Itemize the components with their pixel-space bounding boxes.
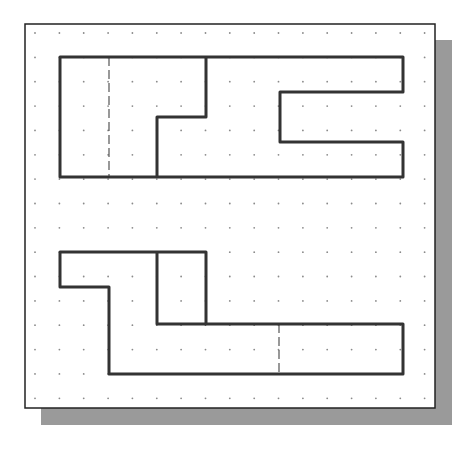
grid-dot <box>375 397 377 399</box>
grid-dot <box>229 300 231 302</box>
grid-dot <box>351 276 353 278</box>
grid-dot <box>399 130 401 132</box>
grid-dot <box>107 203 109 205</box>
grid-dot <box>399 251 401 253</box>
grid-dot <box>59 203 61 205</box>
grid-dot <box>302 227 304 229</box>
grid-dot <box>424 227 426 229</box>
orthographic-drawing <box>0 0 467 453</box>
grid-dot <box>253 300 255 302</box>
grid-dot <box>375 227 377 229</box>
grid-dot <box>180 130 182 132</box>
grid-dot <box>34 397 36 399</box>
grid-dot <box>424 300 426 302</box>
grid-dot <box>375 130 377 132</box>
grid-dot <box>424 32 426 34</box>
grid-dot <box>107 32 109 34</box>
grid-dot <box>34 349 36 351</box>
grid-dot <box>399 349 401 351</box>
grid-dot <box>424 324 426 326</box>
grid-dot <box>229 81 231 83</box>
grid-dot <box>34 130 36 132</box>
grid-dot <box>326 105 328 107</box>
grid-dot <box>83 397 85 399</box>
grid-dot <box>34 105 36 107</box>
grid-dot <box>302 300 304 302</box>
grid-dot <box>229 105 231 107</box>
grid-dot <box>302 32 304 34</box>
grid-dot <box>302 130 304 132</box>
grid-dot <box>107 105 109 107</box>
grid-dot <box>83 227 85 229</box>
grid-dot <box>326 130 328 132</box>
grid-dot <box>375 81 377 83</box>
grid-dot <box>180 105 182 107</box>
grid-dot <box>83 105 85 107</box>
grid-dot <box>424 373 426 375</box>
grid-dot <box>180 349 182 351</box>
grid-dot <box>326 32 328 34</box>
grid-dot <box>83 32 85 34</box>
grid-dot <box>399 154 401 156</box>
grid-dot <box>132 130 134 132</box>
grid-dot <box>205 397 207 399</box>
grid-dot <box>132 105 134 107</box>
grid-dot <box>107 397 109 399</box>
grid-dot <box>34 154 36 156</box>
grid-dot <box>59 373 61 375</box>
grid-dot <box>253 251 255 253</box>
grid-dot <box>424 349 426 351</box>
grid-dot <box>83 130 85 132</box>
grid-dot <box>326 300 328 302</box>
grid-dot <box>59 349 61 351</box>
grid-dot <box>132 276 134 278</box>
grid-dot <box>302 349 304 351</box>
grid-dot <box>34 300 36 302</box>
grid-dot <box>302 397 304 399</box>
grid-dot <box>229 276 231 278</box>
grid-dot <box>424 105 426 107</box>
grid-dot <box>132 300 134 302</box>
grid-dot <box>351 32 353 34</box>
grid-dot <box>326 227 328 229</box>
grid-dot <box>375 300 377 302</box>
grid-dot <box>180 32 182 34</box>
grid-dot <box>34 324 36 326</box>
grid-dot <box>351 130 353 132</box>
grid-dot <box>253 32 255 34</box>
grid-dot <box>399 276 401 278</box>
grid-dot <box>424 178 426 180</box>
grid-dot <box>424 130 426 132</box>
grid-dot <box>205 227 207 229</box>
grid-dot <box>229 203 231 205</box>
grid-dot <box>229 32 231 34</box>
grid-dot <box>424 57 426 59</box>
grid-dot <box>351 349 353 351</box>
grid-dot <box>34 203 36 205</box>
grid-dot <box>83 324 85 326</box>
grid-dot <box>375 276 377 278</box>
grid-dot <box>34 32 36 34</box>
grid-dot <box>253 130 255 132</box>
grid-dot <box>156 105 158 107</box>
grid-dot <box>107 81 109 83</box>
grid-dot <box>132 32 134 34</box>
grid-dot <box>302 276 304 278</box>
grid-dot <box>326 349 328 351</box>
grid-dot <box>34 81 36 83</box>
grid-dot <box>180 227 182 229</box>
grid-dot <box>278 251 280 253</box>
grid-dot <box>34 178 36 180</box>
grid-dot <box>205 154 207 156</box>
grid-dot <box>253 276 255 278</box>
grid-dot <box>326 154 328 156</box>
grid-dot <box>302 105 304 107</box>
grid-dot <box>132 349 134 351</box>
grid-dot <box>278 203 280 205</box>
grid-dot <box>59 227 61 229</box>
grid-dot <box>180 154 182 156</box>
grid-dot <box>59 32 61 34</box>
grid-dot <box>180 81 182 83</box>
grid-dot <box>424 276 426 278</box>
grid-dot <box>278 81 280 83</box>
